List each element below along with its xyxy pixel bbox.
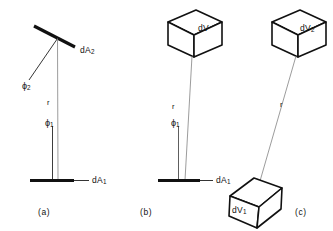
label-da1-b: dA1 xyxy=(216,176,231,185)
panel-c xyxy=(229,10,326,228)
panel-caption-a: (a) xyxy=(38,208,50,217)
volume-element-dv2 xyxy=(272,10,326,57)
panel-caption-b: (b) xyxy=(140,208,152,217)
volume-element-dv xyxy=(168,10,222,57)
radiative-exchange-diagram xyxy=(0,0,333,231)
ray-line-r-b xyxy=(185,56,192,180)
panel-b xyxy=(158,10,222,181)
volume-element-dv1 xyxy=(229,178,282,228)
ray-line-r-c xyxy=(258,56,296,188)
surface-element-da2 xyxy=(34,26,75,47)
label-da2: dA2 xyxy=(80,46,95,55)
label-dv: dV xyxy=(198,24,209,33)
panel-caption-c: (c) xyxy=(295,208,307,217)
normal-line-da2 xyxy=(29,39,58,81)
label-r-b: r xyxy=(172,103,175,111)
label-da1-a: dA1 xyxy=(92,176,107,185)
label-dv2: dV2 xyxy=(300,24,315,33)
label-phi1-a: ϕ1 xyxy=(45,119,54,128)
label-phi1-b: ϕ1 xyxy=(171,119,180,128)
label-r-a: r xyxy=(47,99,50,107)
label-dv1: dV1 xyxy=(232,206,247,215)
ray-line-r-a xyxy=(58,39,59,181)
label-phi2: ϕ2 xyxy=(22,82,31,91)
label-r-c: r xyxy=(280,101,283,109)
